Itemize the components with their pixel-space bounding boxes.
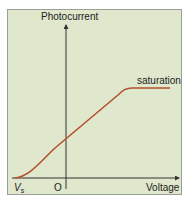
stopping-voltage-label: Vs bbox=[14, 182, 25, 194]
photocurrent-voltage-graph: Photocurrent saturation O Voltage Vs bbox=[0, 0, 192, 201]
y-axis-label: Photocurrent bbox=[41, 11, 98, 22]
photocurrent-curve bbox=[15, 88, 170, 178]
x-axis-label: Voltage bbox=[146, 182, 180, 193]
saturation-label: saturation bbox=[137, 75, 181, 86]
origin-label: O bbox=[54, 182, 62, 193]
